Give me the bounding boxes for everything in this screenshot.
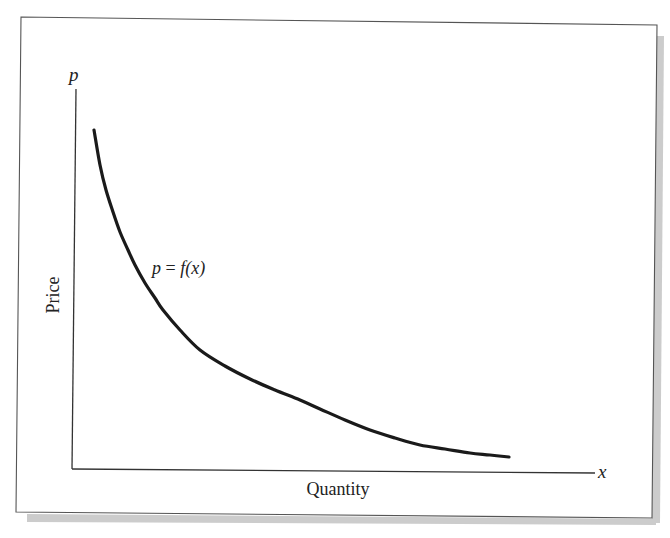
curve-label-eq: =: [161, 258, 180, 278]
y-axis-symbol: p: [67, 64, 79, 85]
curve-label: p = f(x): [150, 258, 205, 279]
y-axis-title: Price: [43, 276, 63, 313]
curve-label-rhs: f(x): [180, 258, 205, 279]
curve-label-lhs: p: [150, 258, 161, 278]
figure-frame: [16, 17, 657, 518]
x-axis-symbol: x: [597, 461, 607, 482]
demand-curve-figure: p x Price Quantity p = f(x): [0, 0, 670, 538]
x-axis-title: Quantity: [307, 479, 370, 499]
